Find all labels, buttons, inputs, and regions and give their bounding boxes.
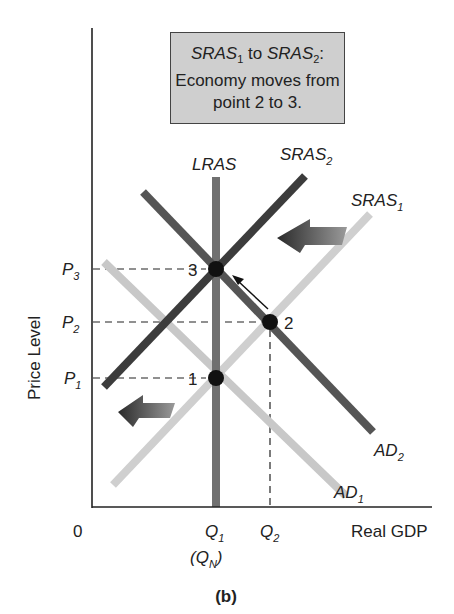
q1-label: Q1 [205,522,224,544]
origin-label: 0 [73,522,82,541]
sras2-label: SRAS2 [280,145,332,167]
point-3-label: 3 [188,261,197,280]
sras1-label: SRAS1 [351,191,403,213]
ad2-label: AD2 [373,441,404,463]
diagram-canvas: 3 2 1 LRAS SRAS2 SRAS1 AD2 AD1 P3 P2 P1 … [0,0,454,614]
point-3 [208,261,224,277]
point-1-label: 1 [188,370,197,389]
p3-label: P3 [62,260,80,282]
point-2-label: 2 [284,314,293,333]
x-axis-label: Real GDP [351,522,428,541]
q2-label: Q2 [260,522,279,544]
p2-label: P2 [62,313,79,335]
ad1-label: AD1 [333,483,364,505]
lras-label: LRAS [192,155,237,174]
qn-label: (QN) [190,548,223,570]
shift-arrow-left-icon [118,395,175,427]
figure-caption: (b) [215,587,237,606]
point-2 [262,314,278,330]
p1-label: P1 [64,369,81,391]
point-1 [208,370,224,386]
y-axis-label: Price Level [25,316,44,400]
sras1-curve [113,214,370,485]
